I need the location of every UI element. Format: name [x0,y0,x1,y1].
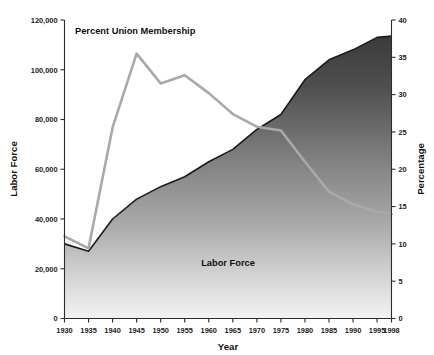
x-axis-tick-label: 1960 [201,326,217,335]
x-axis-tick-label: 1980 [297,326,313,335]
x-axis-tick-label: 1965 [225,326,241,335]
y-axis-left-tick-label: 0 [53,314,57,323]
x-axis-tick-label: 1940 [104,326,120,335]
x-axis-tick-label: 1935 [80,326,96,335]
y-axis-right-tick-label: 25 [399,128,407,137]
x-axis-tick-label: 1970 [249,326,265,335]
y-axis-right-tick-label: 40 [399,16,407,25]
y-axis-right-tick-label: 0 [399,314,403,323]
y-axis-left-tick-label: 60,000 [35,165,58,174]
labor-force-union-membership-chart: 020,00040,00060,00080,000100,000120,000 … [0,0,434,355]
y-axis-left-tick-label: 100,000 [31,66,58,75]
x-axis-tick-label: 1930 [56,326,72,335]
y-axis-left-tick-label: 40,000 [35,215,58,224]
x-axis-tick-label: 1998 [383,326,399,335]
y-axis-left-tick-label: 20,000 [35,265,58,274]
x-axis-tick-label: 1990 [345,326,361,335]
chart-canvas: 020,00040,00060,00080,000100,000120,000 … [0,0,434,355]
y-axis-left-tick-label: 80,000 [35,115,58,124]
x-axis-tick-label: 1975 [273,326,289,335]
x-axis-title: Year [218,341,239,352]
x-axis-tick-label: 1985 [321,326,337,335]
y-axis-left-ticks: 020,00040,00060,00080,000100,000120,000 [31,16,65,324]
labor-force-series-label: Labor Force [201,258,255,268]
x-axis-tick-label: 1955 [176,326,192,335]
y-axis-right-tick-label: 20 [399,165,407,174]
y-axis-right-ticks: 0510152025303540 [392,16,407,324]
y-axis-right-tick-label: 30 [399,90,407,99]
x-axis-tick-label: 1945 [128,326,144,335]
y-axis-right-tick-label: 5 [399,277,403,286]
union-membership-series-label: Percent Union Membership [75,26,196,36]
x-axis-ticks: 1930193519401945195019551960196519701975… [56,319,399,335]
y-axis-left-tick-label: 120,000 [31,16,58,25]
y-axis-right-title: Percentage [415,143,426,195]
y-axis-right-tick-label: 10 [399,240,407,249]
x-axis-tick-label: 1950 [152,326,168,335]
y-axis-right-tick-label: 35 [399,53,407,62]
y-axis-left-title: Labor Force [8,141,19,196]
y-axis-right-tick-label: 15 [399,202,407,211]
